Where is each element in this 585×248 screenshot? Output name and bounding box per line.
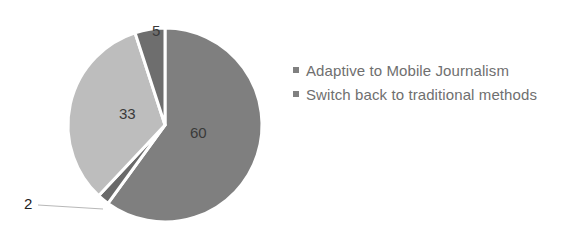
legend-swatch-icon bbox=[293, 91, 299, 97]
legend-swatch-icon bbox=[293, 67, 299, 73]
pie-slices bbox=[68, 28, 262, 222]
legend-label: Adaptive to Mobile Journalism bbox=[306, 62, 509, 79]
legend-label: Switch back to traditional methods bbox=[306, 86, 537, 103]
chart-legend: Adaptive to Mobile Journalism Switch bac… bbox=[293, 58, 537, 106]
slice-label-2: 2 bbox=[24, 195, 32, 212]
slice-label-60: 60 bbox=[190, 124, 207, 141]
slice-label-5: 5 bbox=[152, 22, 160, 39]
legend-item-adaptive: Adaptive to Mobile Journalism bbox=[293, 58, 537, 82]
legend-item-switch-back: Switch back to traditional methods bbox=[293, 82, 537, 106]
slice-label-33: 33 bbox=[119, 105, 136, 122]
leader-line-2 bbox=[38, 205, 103, 209]
pie-chart: 60 33 5 2 bbox=[0, 0, 330, 248]
